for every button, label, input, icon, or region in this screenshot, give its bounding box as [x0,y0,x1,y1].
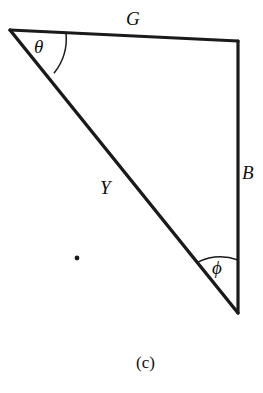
figure-container: G B Y θ ϕ (c) [0,0,263,393]
triangle-outline [10,30,238,313]
dot-marker [75,256,80,261]
triangle-diagram [0,0,263,393]
side-label-y: Y [100,178,111,197]
side-label-g: G [126,9,140,28]
angle-arc-theta [54,33,66,74]
edge-g-top [10,30,238,41]
angle-label-phi: ϕ [212,258,222,277]
angle-label-theta: θ [34,37,43,56]
edge-y-hypotenuse [10,30,238,313]
side-label-b: B [242,163,254,182]
figure-caption: (c) [136,354,155,371]
